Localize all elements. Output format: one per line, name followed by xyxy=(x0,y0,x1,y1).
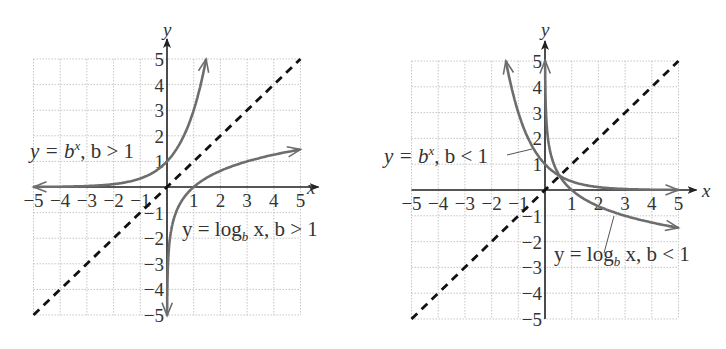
exp-curve xyxy=(34,59,207,187)
x-tick-label: 5 xyxy=(296,190,306,211)
x-tick-label: −5 xyxy=(23,190,43,211)
y-tick-label: 5 xyxy=(533,51,543,72)
y-tick-label: 2 xyxy=(533,128,543,149)
label-log-left: y = logb x, b > 1 xyxy=(182,217,318,244)
x-tick-label: 4 xyxy=(647,193,657,214)
y-tick-label: 4 xyxy=(155,75,165,96)
y-axis-label-right: y xyxy=(539,19,550,40)
x-tick-label: −4 xyxy=(50,190,71,211)
y-tick-label: −3 xyxy=(522,257,542,278)
x-tick-label: −2 xyxy=(103,190,123,211)
plot-b-less-than-1: −5−4−3−2−11234554321−1−2−3−4−5 x y y = b… xyxy=(382,19,711,330)
x-tick-label: 5 xyxy=(674,193,684,214)
x-tick-label: −2 xyxy=(481,193,501,214)
x-tick-label: 3 xyxy=(242,190,252,211)
y-tick-label: −5 xyxy=(144,305,164,326)
y-tick-label: 2 xyxy=(155,126,165,147)
y-axis-label-left: y xyxy=(161,19,172,40)
y-tick-label: 5 xyxy=(155,49,165,70)
x-tick-label: 2 xyxy=(216,190,226,211)
label-log-right: y = logb x, b < 1 xyxy=(554,242,690,269)
x-tick-label: −3 xyxy=(455,193,475,214)
y-tick-label: −2 xyxy=(144,228,164,249)
x-axis-label-right: x xyxy=(701,180,711,201)
x-tick-label: −4 xyxy=(428,193,449,214)
label-exp-right: y = bx, b < 1 xyxy=(382,143,488,168)
x-tick-label: 1 xyxy=(567,193,577,214)
label-exp-left: y = bx, b > 1 xyxy=(28,138,134,163)
y-tick-label: −2 xyxy=(522,232,542,253)
y-tick-label: −3 xyxy=(144,254,164,275)
x-tick-label: 1 xyxy=(189,190,199,211)
log-exp-graphs: −5−4−3−2−11234554321−1−2−3−4−5 x y y = b… xyxy=(0,0,726,349)
leader-exp-right xyxy=(507,149,532,155)
plot-b-greater-than-1: −5−4−3−2−11234554321−1−2−3−4−5 x y y = b… xyxy=(23,19,318,326)
x-tick-label: 4 xyxy=(269,190,279,211)
x-tick-label: 3 xyxy=(620,193,630,214)
x-tick-label: −5 xyxy=(401,193,421,214)
y-tick-label: 3 xyxy=(155,100,165,121)
x-axis-label-left: x xyxy=(306,177,316,198)
x-tick-label: −3 xyxy=(77,190,97,211)
y-tick-label: 3 xyxy=(533,103,543,124)
y-tick-label: −4 xyxy=(522,283,543,304)
y-tick-label: −4 xyxy=(144,279,165,300)
y-tick-label: −5 xyxy=(522,309,542,330)
y-tick-label: 4 xyxy=(533,77,543,98)
log-curve xyxy=(545,61,678,228)
